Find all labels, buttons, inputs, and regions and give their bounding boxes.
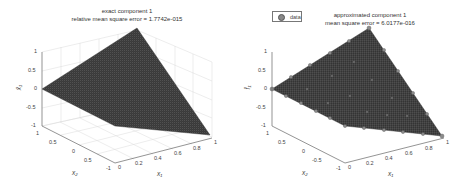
z-tick: -1 xyxy=(261,122,266,128)
z-tick: 0 xyxy=(264,85,267,91)
left-plot-canvas xyxy=(0,0,232,185)
z-tick: 0.5 xyxy=(28,67,36,73)
y-tick: 0 xyxy=(302,148,305,154)
x-tick: 1 xyxy=(214,139,217,145)
z-tick: -0.5 xyxy=(26,104,35,110)
z-tick: -0.5 xyxy=(256,104,265,110)
x-axis-label: x₁ xyxy=(388,170,393,177)
y-tick: 0.5 xyxy=(84,157,92,163)
x-tick: 0 xyxy=(348,164,351,170)
x-tick: 0.8 xyxy=(193,145,201,151)
y-tick: -1 xyxy=(336,165,341,171)
x-tick: 0.2 xyxy=(135,160,143,166)
x-axis-label: x₁ xyxy=(157,170,162,177)
z-axis-label: f̂₁ xyxy=(244,86,251,90)
x-tick: 0.2 xyxy=(366,160,374,166)
x-tick: 1 xyxy=(446,139,449,145)
right-plot-canvas xyxy=(232,0,465,185)
plot-title: exact component 1 relative mean square e… xyxy=(37,7,217,23)
x-tick: 0.8 xyxy=(425,145,433,151)
z-tick: -1 xyxy=(31,122,36,128)
surface xyxy=(272,28,442,136)
right-plot: data approximated component 1 mean squar… xyxy=(232,0,464,185)
x-tick: 0.4 xyxy=(385,155,393,161)
y-tick: 0 xyxy=(72,148,75,154)
y-axis-label: x₂ xyxy=(72,169,78,176)
x-tick: 0 xyxy=(118,164,121,170)
plot-title: approximated component 1 mean square err… xyxy=(280,11,460,27)
surface xyxy=(42,28,210,135)
y-tick: -1 xyxy=(106,165,111,171)
z-axis-label: x̂₁ xyxy=(15,85,22,90)
y-tick: 0.5 xyxy=(49,139,57,145)
z-tick: 1 xyxy=(34,48,37,54)
z-tick: 1 xyxy=(264,48,267,54)
x-tick: 0.4 xyxy=(154,155,162,161)
x-tick: 0.6 xyxy=(174,150,182,156)
left-plot: exact component 1 relative mean square e… xyxy=(0,0,232,185)
z-tick: 0 xyxy=(34,85,37,91)
x-tick: 0.6 xyxy=(405,150,413,156)
z-tick: 0.5 xyxy=(258,67,266,73)
y-tick: -0.5 xyxy=(312,157,321,163)
y-axis-label: x₂ xyxy=(302,169,308,176)
y-tick: 0.5 xyxy=(278,139,286,145)
y-tick: 1 xyxy=(266,130,269,136)
y-tick: 1 xyxy=(36,130,39,136)
